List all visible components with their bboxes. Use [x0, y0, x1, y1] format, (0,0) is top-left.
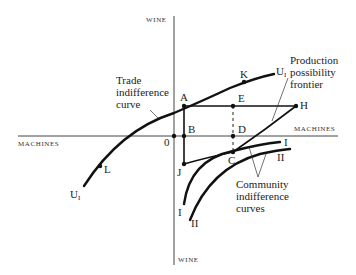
origin-label: 0 — [164, 136, 170, 148]
production-frontier-annotation: Production possibility frontier — [290, 54, 341, 90]
point-B — [182, 134, 186, 138]
point-D — [231, 134, 235, 138]
curve-II-right-label: II — [277, 151, 285, 163]
trade-annotation-leader — [150, 110, 158, 118]
machines-axis-right-label: MACHINES — [294, 125, 335, 133]
trade-curve-upper-label: UI — [276, 65, 287, 79]
community-indifference-annotation: Community indifference curves — [236, 178, 292, 214]
label-L: L — [104, 163, 111, 175]
trade-indifference-annotation: Trade indifference curve — [116, 74, 172, 110]
label-D: D — [238, 123, 246, 135]
curve-I-right-label: I — [284, 136, 288, 148]
point-A — [182, 104, 186, 108]
label-E: E — [238, 92, 245, 104]
community-annotation-leader — [249, 147, 266, 177]
point-L — [98, 164, 102, 168]
machines-axis-left-label: MACHINES — [18, 140, 59, 148]
label-J: J — [177, 166, 182, 178]
point-K — [242, 80, 246, 84]
label-K: K — [240, 68, 248, 80]
point-E — [231, 104, 235, 108]
curve-I-left-label: I — [178, 206, 182, 218]
point-J — [182, 162, 186, 166]
curve-II-left-label: II — [191, 217, 199, 229]
trade-diagram: WINE WINE MACHINES MACHINES 0 UI UI I I … — [0, 0, 356, 275]
point-H — [294, 104, 298, 108]
label-C: C — [228, 154, 235, 166]
wine-axis-bottom-label: WINE — [178, 256, 199, 264]
label-B: B — [188, 123, 195, 135]
label-A: A — [180, 91, 188, 103]
wine-axis-top-label: WINE — [146, 16, 167, 24]
label-H: H — [300, 99, 308, 111]
origin-point — [172, 134, 176, 138]
trade-curve-lower-label: UI — [70, 188, 81, 202]
